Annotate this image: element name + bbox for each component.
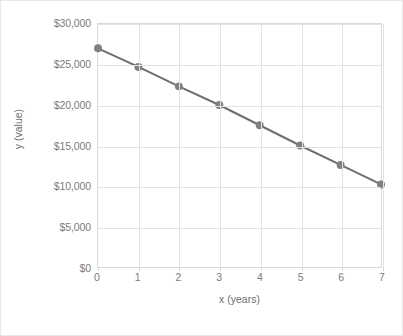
gridline-vertical xyxy=(261,24,262,267)
x-axis-tick-label: 4 xyxy=(257,271,263,283)
gridline-horizontal xyxy=(98,24,381,25)
gridline-vertical xyxy=(139,24,140,267)
plot-area xyxy=(97,23,382,268)
gridline-horizontal xyxy=(98,147,381,148)
data-point-marker xyxy=(94,44,102,52)
x-axis-tick-label: 2 xyxy=(176,271,182,283)
y-axis-tick-label: $30,000 xyxy=(54,17,91,29)
data-point-marker xyxy=(337,161,345,169)
gridline-horizontal xyxy=(98,65,381,66)
gridline-vertical xyxy=(179,24,180,267)
x-axis-tick-label: 0 xyxy=(94,271,100,283)
y-axis-tick-label: $25,000 xyxy=(54,58,91,70)
data-point-marker xyxy=(296,142,304,150)
y-axis-tick-label: $20,000 xyxy=(54,99,91,111)
x-axis-tick-label: 5 xyxy=(298,271,304,283)
chart-container: $0$5,000$10,000$15,000$20,000$25,000$30,… xyxy=(0,0,403,336)
x-axis-title: x (years) xyxy=(97,293,382,305)
gridline-vertical xyxy=(302,24,303,267)
y-axis-tick-labels: $0$5,000$10,000$15,000$20,000$25,000$30,… xyxy=(35,23,91,268)
y-axis-title: y (value) xyxy=(12,84,24,174)
gridline-horizontal xyxy=(98,106,381,107)
x-axis-tick-labels: 01234567 xyxy=(97,271,382,289)
series-line-value xyxy=(98,24,381,267)
data-point-marker xyxy=(256,121,264,129)
x-axis-tick-label: 7 xyxy=(379,271,385,283)
gridline-vertical xyxy=(220,24,221,267)
y-axis-tick-label: $0 xyxy=(80,262,91,274)
x-axis-tick-label: 6 xyxy=(338,271,344,283)
gridline-horizontal xyxy=(98,187,381,188)
x-axis-tick-label: 1 xyxy=(135,271,141,283)
gridline-horizontal xyxy=(98,228,381,229)
gridline-vertical xyxy=(342,24,343,267)
y-axis-tick-label: $10,000 xyxy=(54,180,91,192)
y-axis-tick-label: $5,000 xyxy=(59,221,91,233)
y-axis-tick-label: $15,000 xyxy=(54,140,91,152)
gridline-vertical xyxy=(383,24,384,267)
x-axis-tick-label: 3 xyxy=(216,271,222,283)
